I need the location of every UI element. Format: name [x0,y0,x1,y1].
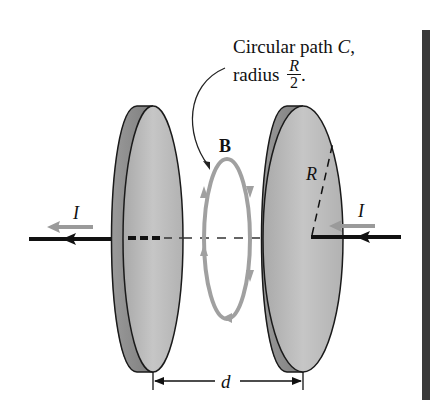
field-loop [200,159,254,323]
caption-line-2: radius R2. [233,58,306,91]
leader-arrowhead-icon [203,161,210,170]
caption-text: Circular path [233,36,337,57]
caption-path-var: C [337,36,350,57]
edge-bar [422,30,430,400]
separation-label-d: d [221,372,231,391]
caption-line-1: Circular path C, [233,37,355,56]
diagram-graphics [0,0,430,402]
fraction-numerator: R [287,58,301,75]
fraction-denominator: 2 [287,75,301,91]
current-label-left: I [73,204,79,222]
dimension-arrow-right-icon [292,377,302,385]
current-label-right: I [358,202,364,220]
loop-arrow-icon [222,313,232,323]
caption-radius-text: radius [233,64,284,85]
left-wire [29,233,122,245]
caption-comma: , [350,36,355,57]
field-label-b: B [219,137,231,155]
left-current-arrow [47,221,93,233]
caption-period: . [301,64,306,85]
loop-arrow-icon [200,244,208,256]
radius-fraction: R2 [287,58,301,91]
dimension-arrow-left-icon [154,377,164,385]
left-plate [112,106,184,372]
radius-label-r: R [306,165,317,183]
capacitor-diagram: Circular path C, radius R2. B R I I d [0,0,430,402]
